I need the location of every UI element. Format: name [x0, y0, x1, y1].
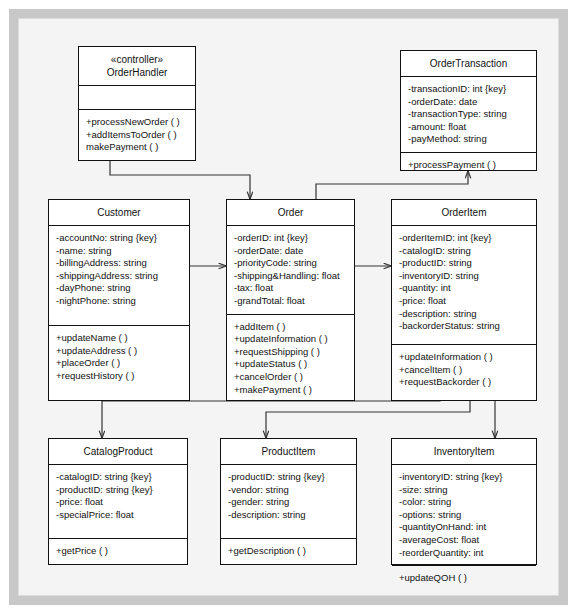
class-operations-order: +addItem ( ) +updateInformation ( ) +req… — [227, 315, 354, 403]
class-name-inventory-item: InventoryItem — [392, 439, 536, 465]
class-attributes-catalog-product: -catalogID: string {key} -productID: str… — [49, 465, 187, 539]
uml-class-order-handler[interactable]: «controller» OrderHandler +processNewOrd… — [78, 46, 196, 161]
class-attributes-order: -orderID: int {key} -orderDate: date -pr… — [227, 226, 354, 315]
class-operations-inventory-item: +updateQOH ( ) — [392, 566, 536, 591]
class-attributes-order-item: -orderItemID: int {key} -catalogID: stri… — [392, 226, 536, 345]
class-name-customer: Customer — [49, 200, 189, 226]
class-operations-catalog-product: +getPrice ( ) — [49, 539, 187, 564]
class-attributes-order-handler — [79, 86, 195, 110]
class-operations-order-transaction: +processPayment ( ) — [401, 153, 536, 178]
class-name-order: Order — [227, 200, 354, 226]
class-operations-product-item: +getDescription ( ) — [221, 539, 356, 564]
class-operations-order-item: +updateInformation ( ) +cancelItem ( ) +… — [392, 345, 536, 400]
diagram-canvas: «controller» OrderHandler +processNewOrd… — [0, 0, 579, 615]
class-name-order-item: OrderItem — [392, 200, 536, 226]
class-attributes-customer: -accountNo: string {key} -name: string -… — [49, 226, 189, 326]
class-name-order-handler: «controller» OrderHandler — [79, 47, 195, 86]
uml-class-order-item[interactable]: OrderItem -orderItemID: int {key} -catal… — [391, 199, 537, 401]
uml-class-inventory-item[interactable]: InventoryItem -inventoryID: string {key}… — [391, 438, 537, 565]
class-operations-customer: +updateName ( ) +updateAddress ( ) +plac… — [49, 326, 189, 400]
class-name-order-transaction: OrderTransaction — [401, 51, 536, 77]
class-operations-order-handler: +processNewOrder ( ) +addItemsToOrder ( … — [79, 110, 195, 160]
class-name-catalog-product: CatalogProduct — [49, 439, 187, 465]
class-attributes-inventory-item: -inventoryID: string {key} -size: string… — [392, 465, 536, 566]
uml-class-order[interactable]: Order -orderID: int {key} -orderDate: da… — [226, 199, 355, 401]
uml-class-customer[interactable]: Customer -accountNo: string {key} -name:… — [48, 199, 190, 401]
uml-class-product-item[interactable]: ProductItem -productID: string {key} -ve… — [220, 438, 357, 565]
class-name-product-item: ProductItem — [221, 439, 356, 465]
class-attributes-order-transaction: -transactionID: int {key} -orderDate: da… — [401, 77, 536, 153]
uml-class-order-transaction[interactable]: OrderTransaction -transactionID: int {ke… — [400, 50, 537, 171]
uml-class-catalog-product[interactable]: CatalogProduct -catalogID: string {key} … — [48, 438, 188, 565]
class-attributes-product-item: -productID: string {key} -vendor: string… — [221, 465, 356, 539]
